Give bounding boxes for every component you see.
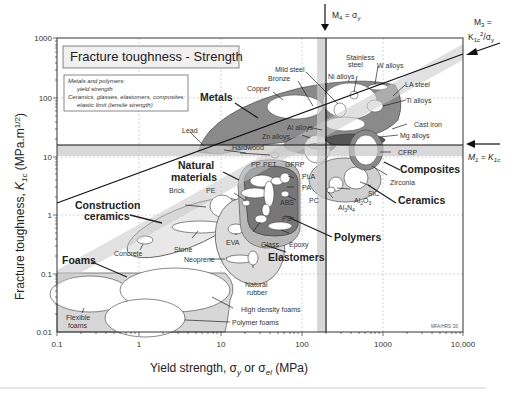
svg-text:Mild steel: Mild steel bbox=[275, 66, 305, 73]
svg-text:ABS: ABS bbox=[280, 199, 294, 206]
label-construction-ceramics-2: ceramics bbox=[84, 210, 130, 222]
svg-text:PP: PP bbox=[251, 161, 261, 168]
svg-text:10,000: 10,000 bbox=[451, 340, 476, 349]
label-ceramics: Ceramics bbox=[398, 194, 445, 206]
svg-text:Natural: Natural bbox=[245, 281, 268, 288]
svg-text:SiC: SiC bbox=[368, 190, 379, 197]
svg-text:Al alloys: Al alloys bbox=[287, 124, 314, 132]
svg-text:Hardwood: Hardwood bbox=[232, 144, 264, 151]
chart-title-box: Fracture toughness - Strength bbox=[63, 46, 243, 68]
svg-text:PET: PET bbox=[263, 161, 277, 168]
svg-text:elastic limit (tensile strengt: elastic limit (tensile strength) bbox=[77, 102, 153, 108]
chart-title: Fracture toughness - Strength bbox=[70, 49, 243, 64]
svg-text:Zn alloys: Zn alloys bbox=[262, 133, 291, 141]
svg-text:0.1: 0.1 bbox=[41, 270, 53, 279]
svg-text:PLA: PLA bbox=[302, 173, 316, 180]
label-foams: Foams bbox=[62, 254, 96, 266]
label-composites: Composites bbox=[400, 163, 460, 175]
svg-text:1: 1 bbox=[137, 340, 142, 349]
svg-text:Stone: Stone bbox=[174, 246, 192, 253]
svg-text:1: 1 bbox=[48, 211, 53, 220]
svg-text:Bronze: Bronze bbox=[268, 75, 290, 82]
svg-text:GFRP: GFRP bbox=[285, 161, 305, 168]
y-axis-title: Fracture toughness, K1c (MPa.m1/2) bbox=[13, 113, 29, 300]
svg-text:100: 100 bbox=[39, 94, 53, 103]
svg-text:CFRP: CFRP bbox=[398, 149, 417, 156]
svg-text:Epoxy: Epoxy bbox=[289, 241, 309, 249]
svg-text:100: 100 bbox=[295, 340, 309, 349]
svg-text:Mg alloys: Mg alloys bbox=[400, 132, 430, 140]
svg-text:M4 = σy: M4 = σy bbox=[332, 10, 360, 21]
svg-text:High density foams: High density foams bbox=[241, 306, 301, 314]
svg-text:steel: steel bbox=[348, 61, 363, 68]
svg-text:Zirconia: Zirconia bbox=[390, 179, 415, 186]
svg-text:Ceramics, glasses, elastomers,: Ceramics, glasses, elastomers, composite… bbox=[68, 94, 185, 100]
svg-text:PA: PA bbox=[302, 184, 311, 191]
m4-band bbox=[317, 38, 325, 332]
label-natural-materials-1: Natural bbox=[178, 159, 214, 171]
label-metals: Metals bbox=[200, 91, 233, 103]
x-axis-title: Yield strength, σy or σel (MPa) bbox=[150, 361, 308, 377]
svg-text:yield strength: yield strength bbox=[76, 86, 113, 92]
label-polymers: Polymers bbox=[334, 231, 381, 243]
svg-text:rubber: rubber bbox=[247, 289, 268, 296]
svg-text:Metals and polymers:: Metals and polymers: bbox=[68, 78, 125, 84]
svg-text:Brick: Brick bbox=[169, 187, 185, 194]
svg-text:Cast iron: Cast iron bbox=[414, 121, 442, 128]
svg-text:10: 10 bbox=[43, 153, 52, 162]
svg-text:Ni alloys: Ni alloys bbox=[328, 73, 355, 81]
svg-text:10: 10 bbox=[217, 340, 226, 349]
svg-text:Flexible: Flexible bbox=[66, 314, 90, 321]
svg-text:PE: PE bbox=[206, 187, 216, 194]
chart-credit: MFA/HRS '20 bbox=[431, 324, 459, 329]
svg-text:Lead: Lead bbox=[182, 127, 198, 134]
note-box: Metals and polymers: yield strength Cera… bbox=[64, 75, 188, 111]
svg-text:0.1: 0.1 bbox=[51, 340, 63, 349]
svg-text:1000: 1000 bbox=[34, 34, 52, 43]
svg-text:1000: 1000 bbox=[374, 340, 392, 349]
svg-text:EVA: EVA bbox=[226, 239, 240, 246]
svg-text:Ti alloys: Ti alloys bbox=[406, 97, 432, 105]
svg-text:Glass: Glass bbox=[261, 241, 279, 248]
svg-text:Copper: Copper bbox=[247, 85, 271, 93]
svg-text:PC: PC bbox=[309, 197, 319, 204]
svg-text:W alloys: W alloys bbox=[377, 62, 404, 70]
fracture-toughness-strength-chart: Fracture toughness - Strength Metals and… bbox=[0, 0, 522, 396]
svg-text:Stainless: Stainless bbox=[346, 54, 375, 61]
label-elastomers: Elastomers bbox=[268, 251, 325, 263]
svg-text:foams: foams bbox=[68, 322, 88, 329]
svg-text:Neoprene: Neoprene bbox=[184, 256, 215, 264]
svg-text:Concrete: Concrete bbox=[114, 250, 143, 257]
svg-text:PS: PS bbox=[282, 215, 292, 222]
svg-text:LA steel: LA steel bbox=[405, 81, 430, 88]
label-natural-materials-2: materials bbox=[171, 171, 217, 183]
svg-text:Polymer foams: Polymer foams bbox=[232, 319, 279, 327]
svg-text:0.01: 0.01 bbox=[36, 328, 52, 337]
